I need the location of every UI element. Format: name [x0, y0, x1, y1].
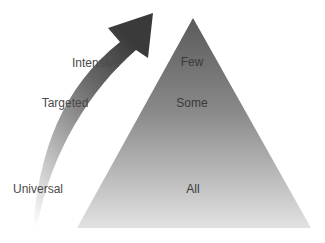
arrow-label-intensive: Intensive	[72, 56, 120, 70]
diagram-canvas	[0, 0, 325, 243]
pyramid-level-few: Few	[181, 55, 204, 69]
pyramid-level-some: Some	[176, 96, 207, 110]
pyramid-level-all: All	[186, 182, 199, 196]
arrow-label-universal: Universal	[13, 182, 63, 196]
arrow-label-targeted: Targeted	[42, 96, 89, 110]
